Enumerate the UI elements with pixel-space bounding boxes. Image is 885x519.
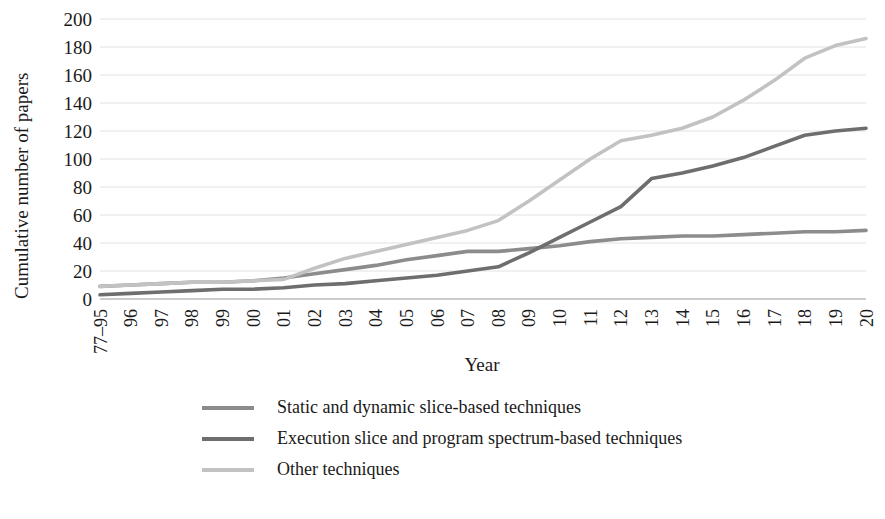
y-tick-label: 40 <box>73 233 92 254</box>
x-tick-label: 02 <box>305 309 325 327</box>
y-tick-label: 120 <box>64 121 93 142</box>
y-axis-title: Cumulative number of papers <box>11 73 32 299</box>
x-tick-label: 97 <box>152 309 172 327</box>
legend-label: Other techniques <box>277 459 399 479</box>
x-tick-label: 01 <box>274 309 294 327</box>
x-tick-label: 16 <box>734 309 754 327</box>
y-tick-label: 80 <box>73 177 92 198</box>
y-tick-label: 180 <box>64 37 93 58</box>
x-tick-label: 04 <box>366 309 386 327</box>
x-tick-label: 06 <box>428 309 448 327</box>
y-tick-label: 140 <box>64 93 93 114</box>
y-tick-label: 60 <box>73 205 92 226</box>
x-tick-label: 17 <box>765 309 785 327</box>
cumulative-papers-line-chart: Cumulative number of papers 020406080100… <box>0 0 885 519</box>
x-tick-label: 20 <box>857 309 877 327</box>
x-tick-label: 77–95 <box>91 309 111 354</box>
y-tick-label: 0 <box>83 289 93 310</box>
y-tick-label: 200 <box>64 9 93 30</box>
x-tick-label: 05 <box>397 309 417 327</box>
x-axis-title: Year <box>464 354 500 375</box>
x-tick-label: 00 <box>244 309 264 327</box>
x-tick-label: 98 <box>182 309 202 327</box>
x-tick-label: 96 <box>121 309 141 327</box>
x-tick-label: 18 <box>795 309 815 327</box>
x-tick-label: 12 <box>611 309 631 327</box>
x-tick-label: 08 <box>489 309 509 327</box>
legend-label: Static and dynamic slice-based technique… <box>277 397 581 417</box>
x-tick-label: 14 <box>673 309 693 327</box>
y-tick-label: 160 <box>64 65 93 86</box>
x-tick-label: 19 <box>826 309 846 327</box>
x-tick-label: 10 <box>550 309 570 327</box>
x-tick-label: 11 <box>581 309 601 326</box>
y-tick-label: 20 <box>73 261 92 282</box>
x-tick-label: 13 <box>642 309 662 327</box>
x-tick-label: 99 <box>213 309 233 327</box>
legend-label: Execution slice and program spectrum-bas… <box>277 428 682 448</box>
x-tick-label: 15 <box>703 309 723 327</box>
y-tick-label: 100 <box>64 149 93 170</box>
x-tick-label: 03 <box>336 309 356 327</box>
x-tick-label: 09 <box>519 309 539 327</box>
x-tick-label: 07 <box>458 309 478 327</box>
